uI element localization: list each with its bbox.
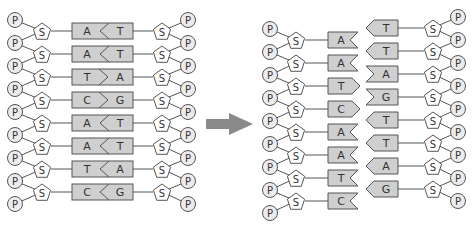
base-label: A [337,149,345,162]
phosphate-label: P [455,150,461,161]
phosphate-label: P [185,199,191,210]
phosphate-label: P [185,176,191,187]
sugar-label: S [293,36,299,47]
sugar-label: S [430,24,436,35]
phosphate-label: P [12,38,18,49]
base-piece-left: A [328,124,358,140]
sugar-label: S [39,119,45,130]
base-label: C [337,195,345,208]
phosphate-label: P [12,107,18,118]
base-right: A [116,163,124,176]
base-piece-right: T [366,112,398,128]
sugar-label: S [39,188,45,199]
base-piece-left: A [328,32,358,48]
base-pair: AT [72,115,133,131]
sugar-label: S [293,174,299,185]
base-pair: AT [72,23,133,39]
sugar-label: S [159,188,165,199]
sugar-label: S [430,162,436,173]
base-pair-box [72,161,133,177]
base-label: A [337,34,345,47]
dna-diagram: ATSSATSSTASSCGSSATSSATSSTASSCGSSPPPPPPPP… [0,0,473,225]
base-piece-right: T [366,43,398,59]
base-pair: TA [72,69,133,85]
sugar-label: S [159,119,165,130]
sugar-label: S [430,47,436,58]
base-pair: TA [72,161,133,177]
phosphate-label: P [455,196,461,207]
sugar-label: S [293,128,299,139]
arrow-icon [206,113,253,135]
phosphate-label: P [185,130,191,141]
sugar-label: S [159,73,165,84]
phosphate-label: P [455,127,461,138]
base-piece-left: T [328,170,358,186]
base-piece-left: T [328,78,360,94]
base-pair-box [72,115,133,131]
phosphate-label: P [267,93,273,104]
base-left: T [83,163,91,176]
base-label: A [382,68,390,81]
phosphate-label: P [267,185,273,196]
phosphate-label: P [455,58,461,69]
base-piece-right: T [366,20,398,36]
sugar-label: S [39,73,45,84]
base-label: T [382,137,390,150]
sugar-label: S [39,165,45,176]
phosphate-label: P [12,153,18,164]
phosphate-label: P [267,208,273,219]
phosphate-label: P [267,47,273,58]
base-left: A [83,48,91,61]
phosphate-label: P [12,176,18,187]
sugar-label: S [430,139,436,150]
base-pair: CG [72,184,133,200]
phosphate-label: P [267,24,273,35]
base-left: A [83,140,91,153]
base-label: G [382,91,391,104]
phosphate-label: P [455,35,461,46]
base-left: T [83,71,91,84]
base-pair-box [72,69,133,85]
sugar-label: S [159,27,165,38]
base-label: A [337,57,345,70]
base-piece-left: A [328,147,358,163]
base-label: G [382,183,391,196]
sugar-label: S [293,197,299,208]
base-label: T [382,45,390,58]
base-label: T [337,172,345,185]
base-label: T [382,22,390,35]
sugar-label: S [159,142,165,153]
sugar-label: S [39,142,45,153]
sugar-label: S [293,59,299,70]
phosphate-label: P [455,173,461,184]
separated-strands: ASASTSCSASASTSCSPPPPPPPPPTSTSASGSTSTSASG… [263,10,466,221]
phosphate-label: P [185,61,191,72]
base-left: C [83,94,91,107]
base-label: T [382,114,390,127]
base-right: T [116,140,124,153]
phosphate-label: P [185,84,191,95]
base-piece-right: G [366,89,398,105]
base-right: T [116,117,124,130]
sugar-label: S [159,96,165,107]
base-pair-box [72,46,133,62]
base-left: A [83,117,91,130]
phosphate-label: P [267,116,273,127]
base-piece-right: A [366,158,398,174]
sugar-label: S [430,93,436,104]
phosphate-label: P [455,12,461,23]
phosphate-label: P [455,104,461,115]
base-piece-left: C [328,193,358,209]
phosphate-label: P [185,38,191,49]
phosphate-label: P [12,61,18,72]
phosphate-label: P [12,84,18,95]
sugar-label: S [159,50,165,61]
sugar-label: S [39,96,45,107]
sugar-label: S [293,105,299,116]
sugar-label: S [430,70,436,81]
sugar-label: S [293,151,299,162]
phosphate-label: P [185,107,191,118]
base-right: G [116,186,125,199]
sugar-label: S [159,165,165,176]
phosphate-label: P [455,81,461,92]
